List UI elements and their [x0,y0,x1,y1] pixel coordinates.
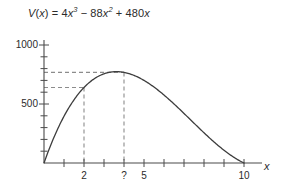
function-curve [44,72,244,163]
y-tick-label-500: 500 [5,98,38,109]
y-tick-label-1000: 1000 [5,39,38,50]
guide-lines-layer [44,72,124,163]
graph-figure: V(x) = 4x3 − 88x2 + 480x 10005002?510 x [0,0,287,190]
axes-layer [39,40,262,167]
x-tick-label-2: 2 [70,170,98,181]
x-tick-label-5: 5 [130,170,158,181]
x-tick-label-10: 10 [230,170,258,181]
plot-area [0,0,287,190]
curve-layer [44,72,244,163]
x-axis-label: x [264,160,270,172]
